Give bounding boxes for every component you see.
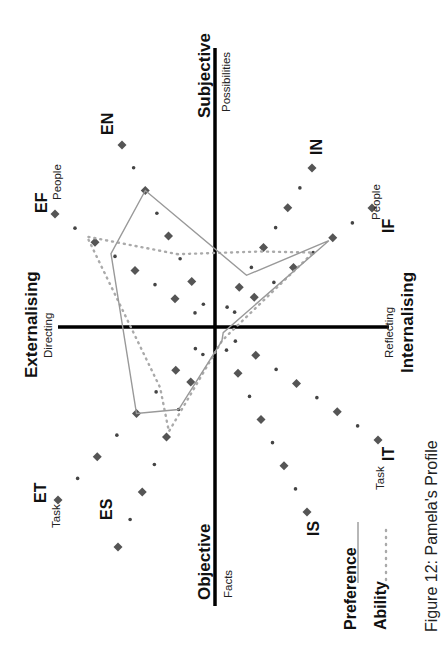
- legend-preference-label: Preference: [342, 547, 359, 630]
- spoke-marker-en: [187, 277, 196, 286]
- spoke-sub-if: People: [370, 184, 382, 220]
- spoke-dot-in: [250, 266, 254, 270]
- ability-polygon: [87, 237, 313, 432]
- spoke-marker-is: [256, 415, 265, 424]
- spoke-sub-it: Task: [374, 466, 386, 490]
- spoke-dot-ef: [73, 226, 77, 230]
- spoke-dot-en: [202, 302, 206, 306]
- spoke-marker-et: [93, 452, 102, 461]
- axis-title-externalising: Externalising: [22, 271, 41, 378]
- axis-title-objective: Objective: [195, 523, 214, 600]
- profile-chart: Subjective Possibilities Objective Facts…: [0, 0, 448, 665]
- spoke-label-es: ES: [98, 498, 115, 520]
- spoke-dot-in: [298, 186, 302, 190]
- spoke-dot-et: [115, 433, 119, 437]
- spoke-marker-ef: [170, 294, 179, 303]
- spoke-dot-in: [274, 226, 278, 230]
- spoke-dot-et: [194, 347, 198, 351]
- spoke-marker-in: [307, 163, 316, 172]
- spoke-dot-en: [132, 166, 136, 170]
- spoke-dot-ef: [113, 255, 117, 259]
- spoke-marker-ef: [130, 266, 139, 275]
- spoke-label-if: IF: [380, 219, 397, 233]
- spoke-marker-it: [292, 379, 301, 388]
- spoke-dot-en: [155, 211, 159, 215]
- axis-title-subjective: Subjective: [195, 33, 214, 118]
- spoke-marker-in: [283, 203, 292, 212]
- spoke-label-et: ET: [32, 482, 49, 503]
- legend-ability-label: Ability: [372, 581, 389, 630]
- spoke-marker-it: [373, 435, 382, 444]
- axis-title-internalising: Internalising: [398, 272, 417, 373]
- spoke-dot-if: [351, 221, 355, 225]
- spoke-marker-es: [138, 487, 147, 496]
- spoke-dot-it: [315, 396, 319, 400]
- spoke-dot-if: [233, 310, 237, 314]
- spoke-label-is: IS: [305, 521, 322, 536]
- spoke-marker-is: [302, 507, 311, 516]
- spoke-dot-is: [225, 348, 229, 352]
- spoke-dot-if: [272, 281, 276, 285]
- spoke-label-in: IN: [308, 139, 325, 155]
- axis-subtitle-reflecting: Reflecting: [383, 307, 395, 358]
- spoke-sub-ef: People: [51, 164, 63, 200]
- spoke-dot-in: [225, 305, 229, 309]
- axis-subtitle-facts: Facts: [222, 570, 234, 598]
- spoke-marker-es: [113, 542, 122, 551]
- spoke-dot-et: [76, 477, 80, 481]
- axis-subtitle-directing: Directing: [42, 313, 54, 358]
- spoke-marker-ef: [50, 209, 59, 218]
- spoke-dot-et: [154, 390, 158, 394]
- spoke-dot-it: [274, 368, 278, 372]
- spoke-dot-es: [153, 463, 157, 467]
- spoke-marker-en: [117, 140, 126, 149]
- spoke-marker-is: [233, 369, 242, 378]
- spoke-marker-it: [333, 407, 342, 416]
- spoke-dot-en: [178, 257, 182, 261]
- spoke-marker-if: [250, 293, 259, 302]
- spoke-marker-it: [251, 351, 260, 360]
- spoke-dot-it: [356, 424, 360, 428]
- spoke-label-ef: EF: [33, 192, 50, 213]
- spoke-dot-is: [248, 395, 252, 399]
- spoke-marker-is: [279, 461, 288, 470]
- spoke-dot-is: [271, 441, 275, 445]
- spoke-marker-et: [53, 495, 62, 504]
- spoke-marker-es: [162, 432, 171, 441]
- spoke-dot-is: [294, 487, 298, 491]
- spoke-marker-in: [235, 283, 244, 292]
- spoke-dot-ef: [153, 283, 157, 287]
- spoke-dot-ef: [193, 311, 197, 315]
- spoke-label-it: IT: [380, 447, 397, 461]
- spoke-dot-it: [234, 339, 238, 343]
- spoke-marker-en: [164, 231, 173, 240]
- spoke-label-en: EN: [99, 113, 116, 135]
- figure-caption: Figure 12: Pamela's Profile: [423, 440, 440, 632]
- spoke-marker-et: [171, 366, 180, 375]
- spoke-dot-es: [201, 353, 205, 357]
- axis-subtitle-possibilities: Possibilities: [220, 52, 232, 112]
- spoke-marker-if: [328, 233, 337, 242]
- spoke-sub-et: Task: [50, 504, 62, 528]
- spoke-dot-es: [128, 518, 132, 522]
